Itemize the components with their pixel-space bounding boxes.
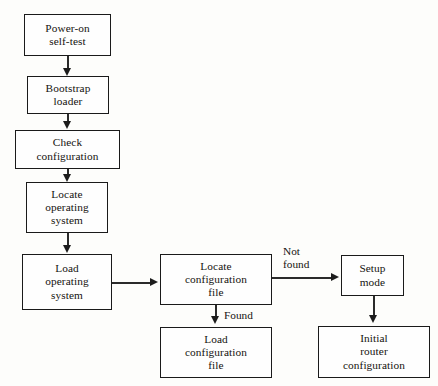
- node-label-locate-configuration-file: Locate configuration file: [183, 260, 249, 300]
- node-check-configuration[interactable]: Check configuration: [15, 130, 120, 169]
- arrowhead-right-icon: [331, 273, 339, 281]
- edge-setup-mode-to-initial-router-config: [373, 296, 375, 316]
- flowchart-canvas: Power-on self-test Bootstrap loader Chec…: [0, 0, 438, 386]
- node-label-locate-operating-system: Locate operating system: [43, 188, 91, 228]
- node-label-load-operating-system: Load operating system: [43, 262, 91, 302]
- arrowhead-down-icon: [63, 68, 71, 76]
- node-load-operating-system[interactable]: Load operating system: [22, 254, 112, 310]
- edge-locate-config-to-setup-mode: [272, 277, 333, 279]
- node-label-power-on-self-test: Power-on self-test: [43, 22, 92, 48]
- node-power-on-self-test[interactable]: Power-on self-test: [24, 14, 111, 56]
- edge-label-not-found: Not found: [283, 245, 309, 271]
- arrowhead-down-icon: [63, 174, 71, 182]
- arrowhead-down-icon: [63, 245, 71, 253]
- node-locate-configuration-file[interactable]: Locate configuration file: [160, 254, 272, 305]
- node-label-load-configuration-file: Load configuration file: [183, 333, 249, 373]
- node-label-check-configuration: Check configuration: [34, 136, 100, 162]
- arrowhead-down-icon: [369, 315, 377, 323]
- arrowhead-right-icon: [150, 278, 158, 286]
- node-label-initial-router-configuration: Initial router configuration: [341, 332, 407, 372]
- arrowhead-down-icon: [63, 121, 71, 129]
- arrowhead-down-icon: [211, 316, 219, 324]
- node-label-setup-mode: Setup mode: [357, 262, 387, 288]
- node-locate-operating-system[interactable]: Locate operating system: [26, 182, 108, 233]
- node-setup-mode[interactable]: Setup mode: [341, 255, 404, 296]
- edge-label-found: Found: [224, 309, 253, 322]
- figure-caption: [4, 379, 224, 386]
- edge-load-os-to-locate-config-file: [112, 282, 152, 284]
- node-initial-router-configuration[interactable]: Initial router configuration: [318, 326, 430, 378]
- node-load-configuration-file[interactable]: Load configuration file: [160, 327, 272, 378]
- node-bootstrap-loader[interactable]: Bootstrap loader: [27, 76, 109, 114]
- node-label-bootstrap-loader: Bootstrap loader: [44, 82, 93, 108]
